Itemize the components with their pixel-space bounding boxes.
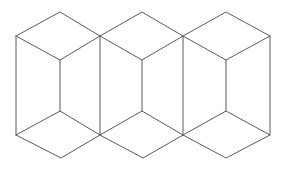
isometric-cube-tessellation-figure bbox=[0, 0, 286, 172]
figure-background bbox=[0, 0, 286, 172]
